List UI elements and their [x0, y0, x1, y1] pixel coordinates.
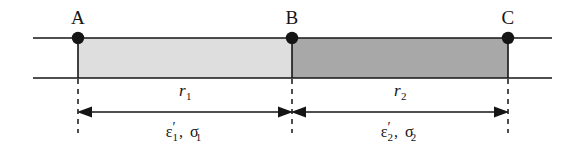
material-2-comma: , [394, 123, 399, 140]
epsilon-1-subscript: 1 [173, 131, 179, 143]
band-outer-layer [292, 38, 508, 78]
sigma-2-subscript: 2 [411, 131, 417, 143]
dimension-label-r2: r2 [320, 82, 480, 99]
r1-subscript: 1 [186, 90, 192, 102]
node-label-b: B [214, 8, 370, 27]
node-label-a: A [0, 8, 156, 27]
node-point-a[interactable] [72, 32, 84, 44]
r1-symbol: r [179, 81, 186, 100]
dimension-label-r1: r1 [105, 82, 265, 99]
node-label-c: C [430, 8, 584, 27]
material-1-comma: , [179, 123, 184, 140]
material-label-1: ε′1, σ1 [105, 124, 265, 140]
sigma-1-subscript: 1 [196, 131, 202, 143]
material-label-2: ε′2, σ2 [320, 124, 480, 140]
r2-subscript: 2 [401, 90, 407, 102]
node-point-c[interactable] [502, 32, 514, 44]
r2-symbol: r [394, 81, 401, 100]
node-point-b[interactable] [286, 32, 298, 44]
arrowhead-r1-right [278, 107, 293, 118]
diagram-canvas: A B C r1 r2 ε′1, σ1 ε′2, σ2 [0, 0, 584, 152]
arrowhead-r1-left [77, 107, 92, 118]
band-inner-layer [78, 38, 292, 78]
arrowhead-r2-right [494, 107, 509, 118]
arrowhead-r2-left [291, 107, 306, 118]
epsilon-2-symbol: ε [381, 123, 388, 140]
epsilon-2-subscript: 2 [388, 131, 394, 143]
epsilon-1-symbol: ε [166, 123, 173, 140]
